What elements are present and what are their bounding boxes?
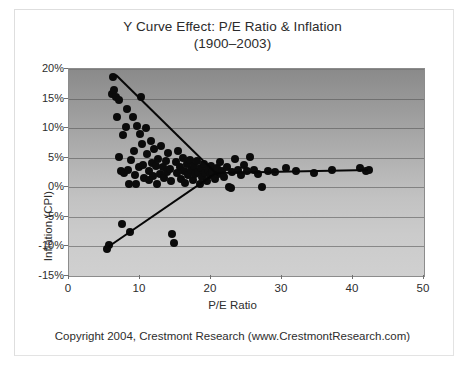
y-axis-label-wrapper: Inflation (CPI) [22, 100, 42, 220]
scatter-point [138, 140, 146, 148]
scatter-point [113, 113, 121, 121]
x-tick-mark [68, 275, 69, 279]
x-tick-label: 10 [119, 282, 159, 294]
x-tick-mark [423, 275, 424, 279]
gridline [69, 246, 424, 247]
y-tick-label: 20% [24, 62, 64, 74]
y-tick-mark [64, 157, 68, 158]
scatter-point [122, 123, 130, 131]
scatter-point [227, 184, 235, 192]
scatter-point [164, 149, 172, 157]
scatter-point [118, 220, 126, 228]
x-tick-mark [281, 275, 282, 279]
x-axis-tick-labels: 01020304050 [0, 282, 465, 300]
scatter-point [157, 142, 165, 150]
chart-subtitle: (1900–2003) [0, 35, 465, 52]
plot-area [68, 68, 425, 277]
scatter-point [142, 124, 150, 132]
gridline [69, 187, 424, 188]
y-tick-mark [64, 127, 68, 128]
x-tick-label: 50 [403, 282, 443, 294]
y-tick-mark [64, 98, 68, 99]
x-tick-mark [352, 275, 353, 279]
scatter-point [127, 156, 135, 164]
x-tick-label: 30 [261, 282, 301, 294]
chart-title-line1: Y Curve Effect: P/E Ratio & Inflation [123, 19, 342, 34]
scatter-point [115, 96, 123, 104]
scatter-point [168, 230, 176, 238]
scatter-point [231, 155, 239, 163]
x-tick-label: 40 [332, 282, 372, 294]
x-axis-label: P/E Ratio [0, 299, 465, 311]
x-tick-mark [210, 275, 211, 279]
scatter-point [119, 131, 127, 139]
scatter-point [147, 137, 155, 145]
gridline [69, 69, 424, 70]
scatter-point [167, 177, 175, 185]
scatter-point [131, 171, 139, 179]
scatter-point [129, 113, 137, 121]
y-tick-mark [64, 186, 68, 187]
y-tick-mark [64, 68, 68, 69]
copyright-footer: Copyright 2004, Crestmont Research (www.… [0, 330, 465, 342]
scatter-point [162, 157, 170, 165]
scatter-point [133, 122, 141, 130]
chart-title: Y Curve Effect: P/E Ratio & Inflation (1… [0, 18, 465, 52]
y-axis-label: Inflation (CPI) [42, 156, 54, 296]
scatter-point [258, 183, 266, 191]
scatter-point [153, 180, 161, 188]
chart-figure: Y Curve Effect: P/E Ratio & Inflation (1… [0, 0, 465, 365]
scatter-point [130, 147, 138, 155]
x-tick-label: 0 [48, 282, 88, 294]
scatter-point [246, 153, 254, 161]
gridline [69, 217, 424, 218]
x-tick-label: 20 [190, 282, 230, 294]
y-tick-mark [64, 245, 68, 246]
y-tick-mark [64, 216, 68, 217]
trendline-lower-branch [107, 172, 217, 248]
x-tick-mark [139, 275, 140, 279]
scatter-point [123, 105, 131, 113]
scatter-point [115, 153, 123, 161]
gridline [69, 276, 424, 277]
